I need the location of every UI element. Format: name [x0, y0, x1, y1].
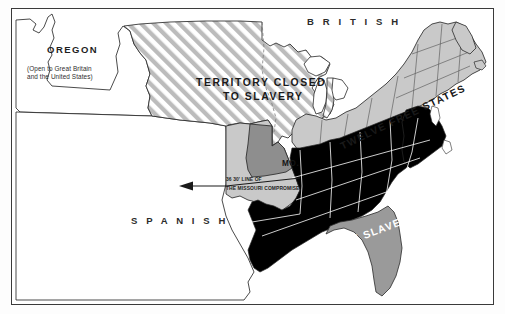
region-spanish — [16, 112, 254, 300]
coastal-notch-carolina — [442, 140, 452, 154]
missouri-compromise-map: B R I T I S H OREGON (Open to Great Brit… — [0, 0, 505, 314]
map-geography — [0, 0, 505, 314]
